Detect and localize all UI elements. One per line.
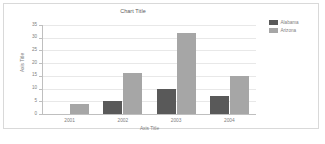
gridline [43,114,256,115]
legend-label: Alabama [281,20,299,25]
y-tick-mark [39,63,42,64]
legend-item[interactable]: Arizona [269,27,317,33]
bar[interactable] [210,96,229,114]
chart-legend: AlabamaArizona [269,19,317,35]
x-tick-label: 2004 [203,118,256,123]
legend-swatch-icon [269,28,278,33]
y-tick-label: 20 [26,61,37,66]
x-axis-ticks: 2001200220032004 [43,118,256,123]
x-axis-title: Axis Title [43,126,256,131]
y-tick-mark [39,76,42,77]
y-tick-label: 30 [26,35,37,40]
bar-group [203,25,256,114]
y-tick-label: 15 [26,73,37,78]
legend-swatch-icon [269,20,278,25]
y-axis-title: Axis Title [20,43,25,83]
y-tick-mark [39,50,42,51]
chart-container: Chart Title Axis Title 2001200220032004 … [3,3,319,129]
y-tick-label: 10 [26,86,37,91]
x-tick-label: 2001 [43,118,96,123]
bar[interactable] [103,101,122,114]
bar[interactable] [70,104,89,114]
bar-group [96,25,149,114]
y-tick-label: 5 [26,99,37,104]
legend-item[interactable]: Alabama [269,19,317,25]
y-tick-label: 35 [26,23,37,28]
bar[interactable] [177,33,196,114]
y-tick-mark [39,89,42,90]
y-tick-mark [39,114,42,115]
bars-layer [43,25,256,114]
legend-label: Arizona [281,28,297,33]
x-tick-label: 2002 [96,118,149,123]
plot-area [43,25,256,114]
chart-title: Chart Title [4,8,262,14]
bar[interactable] [123,73,142,114]
bar-group [43,25,96,114]
bar[interactable] [157,89,176,114]
bar-group [150,25,203,114]
y-tick-label: 0 [26,112,37,117]
y-tick-mark [39,101,42,102]
bar[interactable] [230,76,249,114]
x-tick-label: 2003 [150,118,203,123]
y-tick-mark [39,25,42,26]
y-tick-label: 25 [26,48,37,53]
y-tick-mark [39,38,42,39]
